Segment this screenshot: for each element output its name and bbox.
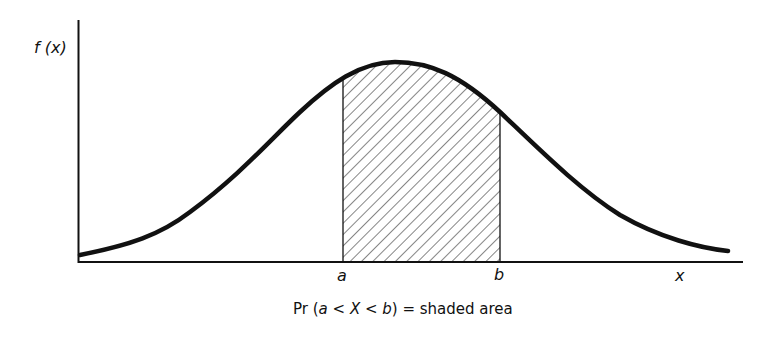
caption-suffix: ) = shaded area bbox=[392, 300, 513, 318]
shaded-area bbox=[343, 40, 500, 262]
y-axis-label: f (x) bbox=[34, 38, 67, 57]
x-axis-label: x bbox=[675, 266, 684, 285]
caption-X: X bbox=[350, 300, 360, 318]
bound-b-label: b bbox=[494, 265, 504, 284]
caption-a: a bbox=[319, 300, 328, 318]
caption: Pr (a < X < b) = shaded area bbox=[293, 300, 513, 318]
caption-b: b bbox=[382, 300, 392, 318]
density-diagram bbox=[0, 0, 770, 338]
caption-lt2: < bbox=[360, 300, 382, 318]
caption-lt1: < bbox=[328, 300, 350, 318]
caption-prefix: Pr ( bbox=[293, 300, 319, 318]
bound-a-label: a bbox=[337, 266, 347, 285]
